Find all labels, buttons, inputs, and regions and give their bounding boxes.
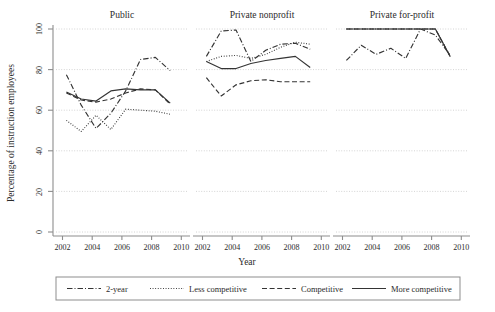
y-tick-60: 60 [35, 106, 44, 114]
x-tick-forprofit-2006: 2006 [394, 243, 410, 252]
chart-figure: Percentage of instruction employees Year… [0, 0, 495, 312]
x-tick-public-2002: 2002 [55, 243, 71, 252]
series-forprofit-less-competitive [346, 29, 450, 56]
x-tick-forprofit-2004: 2004 [364, 243, 380, 252]
series-public-less-competitive [66, 109, 170, 131]
x-tick-public-2010: 2010 [173, 243, 189, 252]
series-nonprofit-more-competitive [206, 56, 310, 68]
panel-public: Public 2002 2004 2006 2008 2010 [53, 10, 190, 252]
x-tick-nonprofit-2006: 2006 [254, 243, 270, 252]
y-tick-labels: 100 80 60 40 20 0 [35, 23, 44, 234]
panel-title-private-nonprofit: Private nonprofit [230, 10, 295, 20]
x-tick-public-2004: 2004 [84, 243, 100, 252]
x-tick-public-2008: 2008 [144, 243, 160, 252]
panel-private-nonprofit: Private nonprofit 2002 2004 2006 2008 20… [193, 10, 330, 252]
panel-private-for-profit: Private for-profit 2002 2004 2006 2008 2… [333, 10, 470, 252]
x-axis-title: Year [238, 257, 256, 267]
series-nonprofit-competitive [206, 78, 310, 96]
x-tick-forprofit-2008: 2008 [424, 243, 440, 252]
legend-label-less-competitive: Less competitive [189, 284, 247, 294]
series-forprofit-competitive [346, 29, 450, 56]
series-forprofit-2-year [346, 29, 450, 60]
y-tick-80: 80 [35, 66, 44, 74]
y-axis-title: Percentage of instruction employees [6, 64, 16, 202]
panel-title-public: Public [110, 10, 134, 20]
x-tick-forprofit-2010: 2010 [453, 243, 469, 252]
series-public-2-year [66, 57, 170, 128]
x-tick-nonprofit-2002: 2002 [195, 243, 211, 252]
y-tick-20: 20 [35, 188, 44, 196]
x-tick-forprofit-2002: 2002 [335, 243, 351, 252]
x-tick-nonprofit-2010: 2010 [313, 243, 329, 252]
legend-label-2-year: 2-year [106, 284, 128, 294]
legend-label-more-competitive: More competitive [391, 284, 452, 294]
chart-svg: Percentage of instruction employees Year… [0, 0, 495, 312]
y-tick-0: 0 [35, 230, 44, 234]
x-tick-public-2006: 2006 [114, 243, 130, 252]
x-tick-nonprofit-2008: 2008 [284, 243, 300, 252]
y-axis [48, 25, 53, 236]
legend-label-competitive: Competitive [301, 284, 343, 294]
panel-title-private-for-profit: Private for-profit [370, 10, 435, 20]
y-tick-100: 100 [35, 23, 44, 35]
legend: 2-year Less competitive Competitive More… [56, 277, 460, 300]
x-tick-nonprofit-2004: 2004 [224, 243, 240, 252]
series-forprofit-more-competitive [346, 29, 450, 56]
y-tick-40: 40 [35, 147, 44, 155]
series-nonprofit-less-competitive [206, 42, 310, 61]
